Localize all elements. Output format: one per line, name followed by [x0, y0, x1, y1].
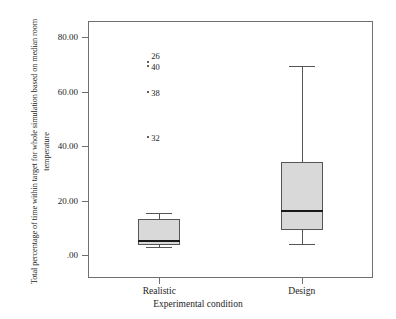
- outlier-label: 26: [151, 51, 160, 61]
- y-axis-tick: [82, 146, 88, 147]
- outlier-label: 40: [151, 62, 160, 72]
- plot-area: [88, 21, 373, 278]
- y-axis-tick-label: 40.00: [58, 141, 78, 151]
- whisker-cap-lower: [146, 247, 172, 248]
- box-design: [281, 162, 323, 230]
- y-axis-tick-label: 20.00: [58, 196, 78, 206]
- whisker-upper: [302, 66, 303, 162]
- whisker-cap-upper: [146, 213, 172, 214]
- median-line-design: [281, 210, 323, 212]
- y-axis-tick: [82, 92, 88, 93]
- y-axis-tick-label: 80.00: [58, 32, 78, 42]
- y-axis-tick-label: .00: [67, 250, 78, 260]
- y-axis-tick: [82, 201, 88, 202]
- y-axis-tick: [82, 255, 88, 256]
- x-axis-label-design: Design: [288, 286, 315, 296]
- x-axis-tick: [159, 278, 160, 284]
- x-axis-tick: [302, 278, 303, 284]
- x-axis-label-realistic: Realistic: [143, 286, 176, 296]
- outlier-point: [147, 61, 149, 63]
- outlier-label: 32: [151, 133, 160, 143]
- x-axis-title: Experimental condition: [0, 299, 396, 309]
- whisker-lower: [302, 230, 303, 244]
- whisker-cap-upper: [289, 66, 315, 67]
- y-axis-title: Total percentage of time within target f…: [29, 19, 52, 285]
- whisker-cap-lower: [289, 244, 315, 245]
- y-axis-tick-label: 60.00: [58, 87, 78, 97]
- boxplot-chart: Total percentage of time within target f…: [0, 0, 396, 319]
- outlier-label: 38: [151, 88, 160, 98]
- median-line-realistic: [138, 240, 180, 242]
- y-axis-tick: [82, 37, 88, 38]
